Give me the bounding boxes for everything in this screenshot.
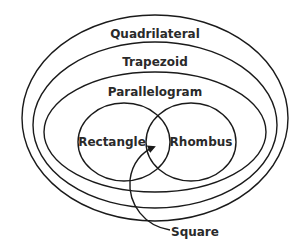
rhombus-label: Rhombus [170,135,233,149]
rectangle-label: Rectangle [78,135,146,149]
quadrilateral-label: Quadrilateral [110,27,200,41]
venn-diagram: Quadrilateral Trapezoid Parallelogram Re… [0,0,306,250]
square-label: Square [171,225,219,239]
parallelogram-label: Parallelogram [108,85,202,99]
trapezoid-label: Trapezoid [122,55,188,69]
